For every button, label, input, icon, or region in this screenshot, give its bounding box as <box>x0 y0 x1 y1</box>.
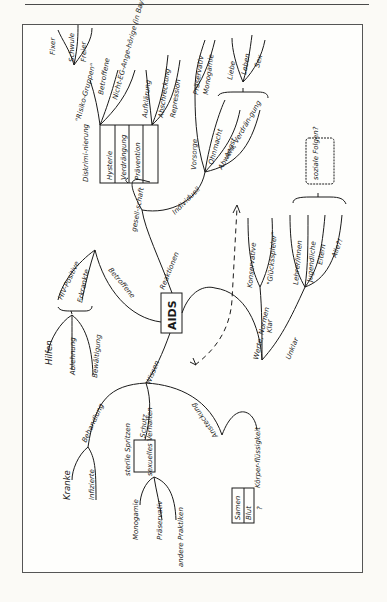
risikogruppe-fixer: Fixer <box>49 37 57 55</box>
sexuelles-verhalten-label: sexuelles Verhalten <box>146 407 154 476</box>
eltern-label: Eltern <box>316 244 327 266</box>
unknown-label: ? <box>256 506 264 510</box>
betroffene-sub-label: Betroffene <box>97 57 111 95</box>
soziale-folgen-label: soziale Folgen? <box>312 126 320 180</box>
risikogruppe-freier: Freier <box>80 41 88 62</box>
reaktionen-label: Reaktionen <box>158 251 180 291</box>
risikogruppe-schwule: Schwule <box>68 33 76 62</box>
hilfen-label: Hilfen <box>44 340 54 365</box>
konservative-label: Konservative <box>246 242 258 288</box>
lehrer-label: Lehrer/innen <box>292 240 304 285</box>
behandlung-label: Behandlung <box>81 402 106 444</box>
gluecksspieler-label: "Glücksspieler" <box>266 231 279 285</box>
werte-line <box>182 287 262 360</box>
sterile-spritzen-label: sterile Spritzen <box>124 423 132 476</box>
leben-label: Leben <box>240 53 252 75</box>
betroffene-label: Betroffene <box>106 266 136 300</box>
column-diskriminierung: Diskrimi-nierung <box>82 123 90 182</box>
praeservativ-schutz-label: Präservativ <box>156 500 164 540</box>
column-verdraengung: Verdrängung <box>120 134 128 180</box>
column-hysterie: Hysterie <box>106 151 114 180</box>
klar-label: Klar <box>266 318 274 333</box>
samen-label: Samen <box>234 496 242 520</box>
abwehr-label: Abwehr, Verdrän-gung <box>216 99 263 172</box>
individuell-brace <box>218 88 268 98</box>
unklar-label: Unklar <box>284 336 300 361</box>
soziale-folgen-box <box>306 138 334 184</box>
erkrankte-label: Erkrankte <box>76 268 91 303</box>
kranke-label: Kranke <box>62 470 72 500</box>
bewaeltigung-label: Bewältigung <box>91 334 103 379</box>
individuell-label: Individuell <box>171 185 202 216</box>
ablehnung-label: Ablehnung <box>69 337 77 376</box>
column-praevention: Prävention <box>134 142 142 180</box>
aids-center-label: AIDS <box>166 300 179 330</box>
monogamie-schutz-label: Monogamie <box>132 499 140 540</box>
koerperfluessigkeit-label: Körper-flüssigkeit <box>254 427 262 488</box>
wissen-label: Wissen <box>144 360 161 386</box>
sex-label: Sex <box>253 53 264 68</box>
gesellschaft-label: gesell-schaft <box>130 187 146 233</box>
mindmap-diagram: AIDS Reaktionen gesell-schaft Individuel… <box>0 0 387 602</box>
betroffene-brace <box>58 306 92 314</box>
blut-label: Blut <box>245 506 253 520</box>
andere-praktiken-label: andere Praktiken <box>177 507 185 567</box>
alle-label: Alle?! <box>330 237 345 259</box>
arrowhead-down <box>190 358 196 365</box>
vorsorge-label: Vorsorge <box>190 139 199 170</box>
repression-label: Repression <box>169 79 182 119</box>
infizierte-label: Infizierte <box>88 469 96 500</box>
dashed-feedback-arrow <box>195 208 237 365</box>
werte-brace <box>293 193 346 204</box>
liebe-label: Liebe <box>226 60 237 80</box>
